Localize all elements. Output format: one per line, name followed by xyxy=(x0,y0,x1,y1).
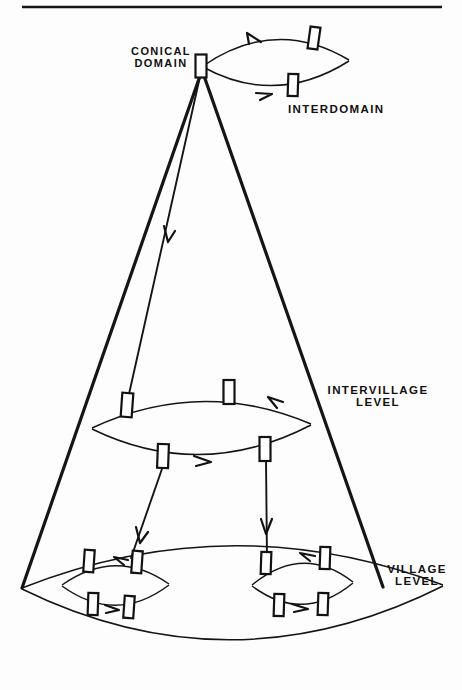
village-plane-lower-arc xyxy=(22,586,443,640)
village-right-arrow-left xyxy=(300,553,315,561)
cone-edge-right xyxy=(203,73,383,587)
village-left-arrow-right xyxy=(105,605,119,613)
node-apex[interactable] xyxy=(196,55,207,78)
interdomain-lens-upper-arc xyxy=(203,39,349,66)
village-left-lower-arc xyxy=(62,585,169,605)
node-interdomain-top[interactable] xyxy=(308,26,321,49)
node-intervillage-top-right[interactable] xyxy=(224,380,235,404)
cone-edges xyxy=(22,73,383,588)
figure-canvas: CONICAL DOMAIN INTERDOMAIN INTERVILLAGE … xyxy=(0,0,462,690)
node-intervillage-bottom-right[interactable] xyxy=(260,437,271,461)
link-intervillage-to-village-right xyxy=(266,460,267,559)
cone-edge-left xyxy=(22,73,201,588)
node-village-right-top-left[interactable] xyxy=(261,552,272,574)
node-village-left-bottom-left[interactable] xyxy=(88,593,99,615)
interdomain-lens-lower-arc xyxy=(203,61,349,86)
node-village-right-top-right[interactable] xyxy=(320,547,331,569)
village-right-lower-arc xyxy=(252,583,353,604)
node-intervillage-top-left[interactable] xyxy=(121,393,134,418)
label-interdomain: INTERDOMAIN xyxy=(288,103,385,115)
node-interdomain-bottom[interactable] xyxy=(288,74,299,96)
interdomain-arrow-right xyxy=(256,93,272,100)
village-right-arrow-right xyxy=(292,604,308,612)
village-left-lens xyxy=(62,557,169,613)
intervillage-arrow-left xyxy=(268,397,283,408)
node-village-left-top-left[interactable] xyxy=(83,550,95,573)
label-village-level: VILLAGE LEVEL xyxy=(378,563,456,588)
node-village-left-top-right[interactable] xyxy=(131,551,143,574)
label-intervillage-level: INTERVILLAGE LEVEL xyxy=(326,384,430,409)
interdomain-lens xyxy=(203,33,349,100)
label-conical-domain: CONICAL DOMAIN xyxy=(125,46,197,70)
intervillage-lens-lower-arc xyxy=(92,425,311,455)
descent-links xyxy=(127,72,272,559)
node-village-right-bottom-left[interactable] xyxy=(274,594,285,616)
link-intervillage-to-village-left xyxy=(131,466,163,558)
node-village-left-bottom-right[interactable] xyxy=(123,596,135,619)
node-intervillage-bottom-left[interactable] xyxy=(157,444,169,468)
node-village-right-bottom-right[interactable] xyxy=(318,593,329,615)
intervillage-arrow-right xyxy=(194,456,211,466)
link-apex-to-intervillage xyxy=(127,72,201,403)
village-left-arrow-left xyxy=(114,557,128,565)
link-apex-arrowhead xyxy=(164,226,175,242)
